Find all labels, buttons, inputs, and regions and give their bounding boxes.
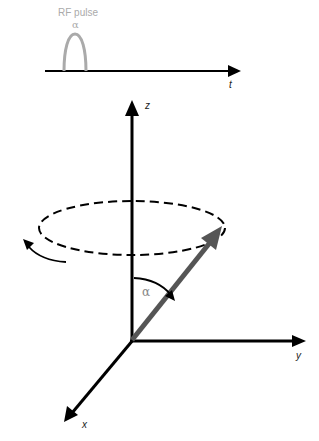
rf-pulse-label: RF pulse xyxy=(58,7,98,18)
flip-angle-arrow xyxy=(134,278,171,295)
rotation-direction-arrow xyxy=(29,247,66,262)
y-axis-label: y xyxy=(296,350,301,361)
rf-flip-angle-label: α xyxy=(72,19,79,30)
rotation-arrowhead-icon xyxy=(23,239,34,250)
magnetization-vector xyxy=(132,226,222,340)
x-axis-label: x xyxy=(82,419,87,430)
time-axis-label: t xyxy=(229,79,232,90)
x-axis xyxy=(64,340,133,422)
time-axis xyxy=(45,65,241,77)
z-axis xyxy=(125,100,139,342)
z-axis-label: z xyxy=(145,100,150,111)
y-axis xyxy=(130,335,306,347)
flip-angle-label: α xyxy=(142,285,150,299)
diagram-canvas xyxy=(0,0,319,441)
rf-pulse-shape xyxy=(64,34,86,71)
